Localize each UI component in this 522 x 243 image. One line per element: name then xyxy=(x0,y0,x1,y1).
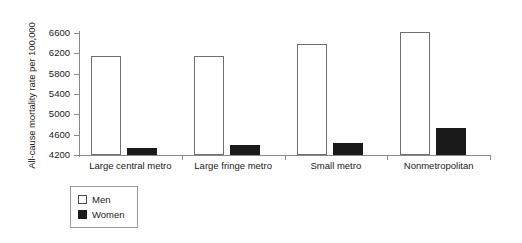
y-axis-tick-label: 5800 xyxy=(28,69,70,79)
bar-men-3 xyxy=(297,44,327,155)
legend-item-women: Women xyxy=(78,207,125,222)
y-axis-tick xyxy=(74,155,80,156)
y-axis-tick xyxy=(74,114,80,115)
y-axis-tick-label: 6200 xyxy=(28,48,70,58)
plot-area xyxy=(79,33,490,155)
x-axis-group-label: Small metro xyxy=(285,160,388,171)
x-axis-tick xyxy=(285,155,286,160)
legend-label-men: Men xyxy=(92,194,110,205)
y-axis-tick xyxy=(74,33,80,34)
legend-item-men: Men xyxy=(78,192,125,207)
legend-label-women: Women xyxy=(92,209,125,220)
x-axis-tick xyxy=(182,155,183,160)
chart-figure: All-cause mortality rate per 100,000 420… xyxy=(0,0,522,243)
chart-legend: Men Women xyxy=(70,186,138,228)
y-axis-tick-label: 4200 xyxy=(28,150,70,160)
y-axis-tick xyxy=(74,74,80,75)
x-axis-tick xyxy=(490,155,491,160)
bar-women-3 xyxy=(333,143,363,155)
bar-women-2 xyxy=(230,145,260,155)
y-axis-tick xyxy=(74,53,80,54)
x-axis-tick xyxy=(387,155,388,160)
y-axis-tick xyxy=(74,135,80,136)
y-axis-tick-label: 4600 xyxy=(28,130,70,140)
bar-men-4 xyxy=(400,32,430,155)
bar-men-1 xyxy=(91,56,121,155)
bar-men-2 xyxy=(194,56,224,155)
filled-square-swatch-icon xyxy=(78,210,87,219)
x-axis-group-label: Nonmetropolitan xyxy=(387,160,490,171)
x-axis-group-label: Large central metro xyxy=(79,160,182,171)
x-axis-group-label: Large fringe metro xyxy=(182,160,285,171)
open-square-swatch-icon xyxy=(78,195,87,204)
y-axis-tick xyxy=(74,94,80,95)
y-axis-tick-label: 6600 xyxy=(28,28,70,38)
y-axis-tick-label: 5400 xyxy=(28,89,70,99)
bar-women-1 xyxy=(127,148,157,155)
bar-women-4 xyxy=(436,128,466,155)
y-axis-tick-label: 5000 xyxy=(28,109,70,119)
